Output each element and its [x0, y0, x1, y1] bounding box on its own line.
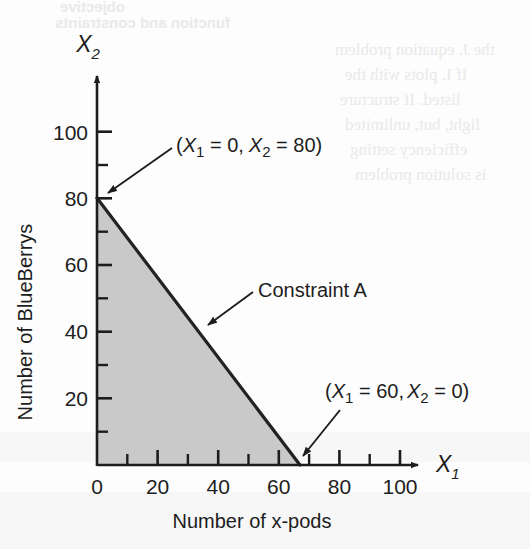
x-axis-symbol: X	[435, 451, 453, 477]
x-axis-symbol-label: X1	[435, 451, 460, 482]
x-tick-label-20: 20	[146, 475, 169, 498]
y-tick-label-80: 80	[65, 187, 88, 210]
y-tick-label-100: 100	[53, 121, 88, 144]
annot2-sub2: 2	[420, 389, 428, 406]
scanned-figure-page: objective function and constraints the J…	[0, 0, 530, 549]
y-axis-symbol: X	[75, 31, 93, 57]
x-tick-label-0: 0	[91, 475, 103, 498]
annot2-eq1: = 60,	[353, 380, 404, 402]
annot1-sub1: 1	[196, 143, 204, 160]
annotation-vertex-x-label: (X1 = 60,X2 = 0)	[325, 380, 469, 406]
y-tick-label-60: 60	[65, 253, 88, 276]
y-axis-subscript: 2	[91, 45, 101, 62]
constraint-plot: 20 40 60 80 100 0 20 40 60 80 100 X2 X1	[0, 0, 530, 549]
x-axis-title: Number of x-pods	[173, 510, 332, 532]
annotation-leader-vertex-x	[303, 410, 340, 456]
x-tick-label-60: 60	[267, 475, 290, 498]
x-axis-subscript: 1	[451, 465, 459, 482]
x-tick-label-100: 100	[382, 475, 417, 498]
annotation-constraint-label: Constraint A	[258, 279, 368, 301]
annot1-eq1: = 0,	[204, 134, 243, 156]
y-tick-label-40: 40	[65, 320, 88, 343]
annot1-sub2: 2	[262, 143, 270, 160]
annot2-eq2: = 0)	[429, 380, 470, 402]
annotation-leader-constraint	[208, 292, 253, 325]
y-axis-symbol-label: X2	[75, 31, 100, 62]
y-axis-title: Number of BlueBerrys	[14, 224, 36, 421]
annot1-var2: X	[248, 134, 263, 156]
annotation-vertex-y-label: (X1 = 0,X2 = 80)	[176, 134, 322, 160]
annot2-sub1: 1	[345, 389, 353, 406]
annot2-var1: X	[331, 380, 346, 402]
annot1-eq2: = 80)	[271, 134, 323, 156]
y-tick-label-20: 20	[65, 387, 88, 410]
annotation-leader-vertex-y	[108, 148, 172, 193]
annot1-var1: X	[182, 134, 197, 156]
x-tick-label-40: 40	[207, 475, 230, 498]
x-tick-label-80: 80	[328, 475, 351, 498]
annot2-var2: X	[406, 380, 421, 402]
